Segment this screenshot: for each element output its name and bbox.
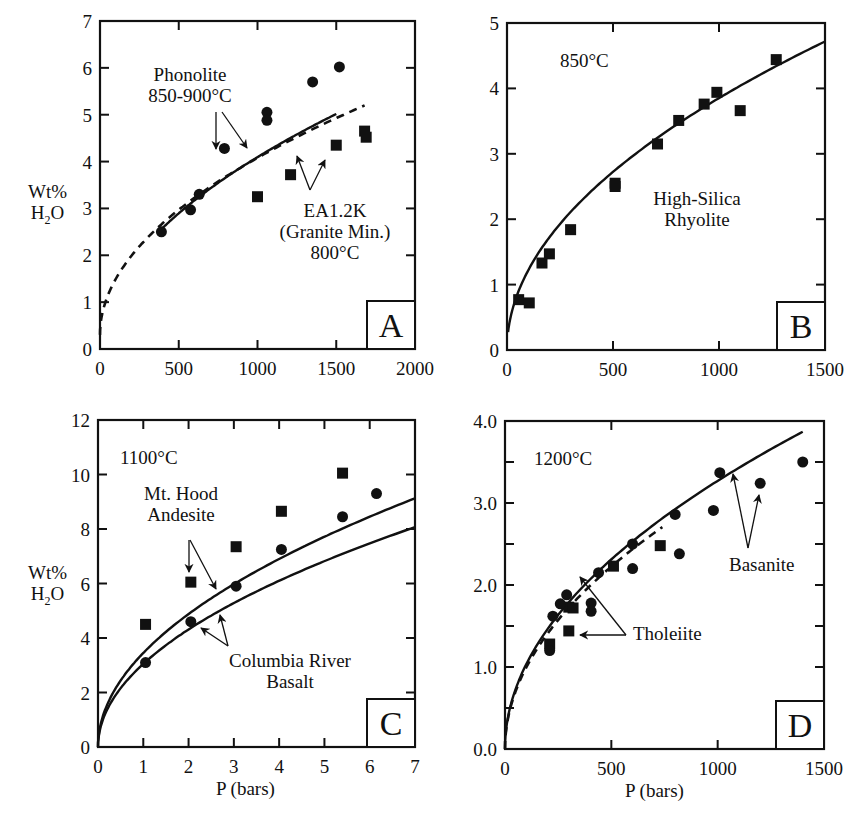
- data-point-circle: [371, 488, 382, 499]
- y-tick-label: 5: [490, 13, 500, 34]
- y-tick-label: 5: [83, 105, 93, 126]
- annotation-text: Tholeiite: [633, 623, 702, 644]
- x-tick-label: 2: [184, 756, 194, 777]
- data-point-circle: [334, 61, 345, 72]
- data-point-square: [652, 138, 663, 149]
- y-tick-label: 1: [490, 275, 500, 296]
- ylabel-line1: Wt%: [28, 181, 67, 202]
- data-point-circle: [261, 115, 272, 126]
- annotation-text: Phonolite: [154, 64, 227, 85]
- y-tick-label: 4: [490, 78, 500, 99]
- y-tick-label: 4: [81, 628, 91, 649]
- y-tick-label: 3: [83, 198, 93, 219]
- data-point-circle: [156, 226, 167, 237]
- x-tick-label: 0: [502, 359, 512, 380]
- data-point-square: [140, 619, 151, 630]
- plot-frame: [100, 21, 415, 349]
- annotation-arrow: [297, 156, 310, 190]
- data-point-circle: [627, 563, 638, 574]
- annotation-text: Rhyolite: [664, 209, 729, 230]
- x-tick-label: 4: [274, 756, 284, 777]
- x-tick-label: 7: [410, 756, 420, 777]
- data-point-circle: [674, 548, 685, 559]
- data-point-square: [361, 132, 372, 143]
- annotation-text: Andesite: [147, 504, 215, 525]
- annotation-text: (Granite Min.): [280, 221, 391, 243]
- x-tick-label: 500: [597, 758, 626, 779]
- data-point-circle: [337, 511, 348, 522]
- data-point-square: [673, 115, 684, 126]
- annotation-text: 1200°C: [534, 448, 592, 469]
- panel-label: D: [788, 707, 813, 744]
- plot-frame: [507, 23, 825, 350]
- x-tick-label: 1500: [806, 359, 844, 380]
- y-tick-label: 10: [71, 465, 90, 486]
- data-point-square: [285, 169, 296, 180]
- data-point-circle: [194, 189, 205, 200]
- x-tick-label: 5: [320, 756, 330, 777]
- panel-a: 050010001500200001234567Phonolite850-900…: [83, 11, 435, 379]
- x-tick-label: 1000: [239, 358, 277, 379]
- ylabel-line1: Wt%: [28, 562, 67, 583]
- panel-label: B: [790, 308, 813, 345]
- panel-label: C: [380, 705, 403, 742]
- panel-d: 0500100015000.01.02.03.04.01200°CTholeii…: [473, 411, 843, 779]
- y-tick-label: 0: [81, 737, 91, 758]
- data-point-circle: [276, 544, 287, 555]
- figure: 050010001500200001234567Phonolite850-900…: [0, 0, 856, 814]
- annotation-arrow: [310, 160, 325, 190]
- data-point-circle: [586, 606, 597, 617]
- data-point-circle: [561, 589, 572, 600]
- data-point-circle: [547, 611, 558, 622]
- y-tick-label: 4: [83, 152, 93, 173]
- data-point-circle: [185, 616, 196, 627]
- xlabel-d: P (bars): [625, 780, 684, 802]
- data-point-square: [565, 224, 576, 235]
- x-tick-label: 0: [500, 758, 510, 779]
- data-point-square: [252, 191, 263, 202]
- x-tick-label: 1: [139, 756, 149, 777]
- data-point-square: [513, 294, 524, 305]
- x-tick-label: 1500: [317, 358, 355, 379]
- y-tick-label: 0: [490, 340, 500, 361]
- data-point-circle: [755, 478, 766, 489]
- annotation-arrow: [222, 112, 247, 148]
- chart-canvas: 050010001500200001234567Phonolite850-900…: [0, 0, 856, 814]
- ylabel-bottom: Wt% H2O: [28, 562, 67, 612]
- annotation-text: 800°C: [311, 242, 360, 263]
- x-tick-label: 0: [93, 756, 103, 777]
- x-tick-label: 6: [365, 756, 375, 777]
- x-tick-label: 0: [95, 358, 105, 379]
- y-tick-label: 0: [83, 339, 93, 360]
- data-point-circle: [670, 509, 681, 520]
- data-point-square: [524, 297, 535, 308]
- data-point-square: [699, 99, 710, 110]
- data-point-circle: [307, 76, 318, 87]
- y-tick-label: 6: [83, 58, 93, 79]
- data-point-circle: [219, 143, 230, 154]
- annotation-text: EA1.2K: [304, 200, 367, 221]
- data-point-circle: [593, 567, 604, 578]
- y-tick-label: 0.0: [473, 739, 497, 760]
- annotation-text: High-Silica: [653, 188, 741, 209]
- data-point-circle: [797, 457, 808, 468]
- y-tick-label: 1: [83, 292, 93, 313]
- annotation-text: 850°C: [560, 50, 609, 71]
- data-point-square: [711, 87, 722, 98]
- data-point-square: [610, 181, 621, 192]
- y-tick-label: 3.0: [473, 493, 497, 514]
- y-tick-label: 2: [83, 245, 93, 266]
- data-point-square: [337, 468, 348, 479]
- plot-frame: [505, 421, 824, 749]
- x-tick-label: 3: [229, 756, 239, 777]
- data-point-circle: [627, 539, 638, 550]
- data-point-square: [276, 506, 287, 517]
- data-point-circle: [714, 467, 725, 478]
- y-tick-label: 3: [490, 144, 500, 165]
- annotation-arrow: [733, 474, 748, 548]
- x-tick-label: 2000: [396, 358, 434, 379]
- data-point-square: [608, 561, 619, 572]
- annotation-text: 850-900°C: [148, 85, 232, 106]
- y-tick-label: 12: [71, 410, 90, 431]
- data-point-circle: [185, 204, 196, 215]
